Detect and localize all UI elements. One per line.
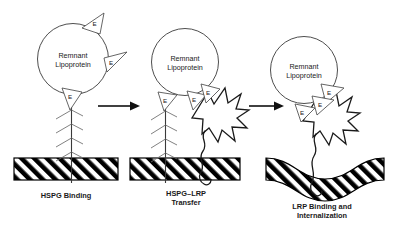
particle-label-line1: Remnant <box>289 62 318 71</box>
apoe-letter: E <box>109 59 113 66</box>
remnant-lipoprotein-pathway-diagram: Remnant Lipoprotein E E E HSPG Binding <box>0 0 394 228</box>
plasma-membrane-flat-2 <box>130 158 240 180</box>
remnant-lipoprotein-particle-1: Remnant Lipoprotein <box>38 24 109 95</box>
apoe-letter: E <box>327 89 331 96</box>
apoe-letter: E <box>68 93 72 100</box>
remnant-lipoprotein-particle-2: Remnant Lipoprotein <box>152 29 219 96</box>
apoe-letter: E <box>300 109 304 116</box>
apoe-letter: E <box>92 20 96 27</box>
plasma-membrane-flat-1 <box>14 158 118 180</box>
apoe-letter: E <box>163 97 167 104</box>
panel-caption-hspg-binding: HSPG Binding <box>41 191 92 200</box>
panel-caption-internalization-line2: Internalization <box>297 211 348 220</box>
apoe-letter: E <box>192 96 196 103</box>
particle-label-line2: Lipoprotein <box>55 60 91 69</box>
particle-label-line2: Lipoprotein <box>167 63 203 72</box>
panel-caption-transfer-line1: HSPG–LRP <box>166 189 206 198</box>
particle-label-line2: Lipoprotein <box>286 71 322 80</box>
apoe-letter: E <box>206 89 210 96</box>
panel-caption-internalization-line1: LRP Binding and <box>292 202 352 211</box>
apoe-letter: E <box>318 101 322 108</box>
particle-label-line1: Remnant <box>170 54 199 63</box>
panel-caption-transfer-line2: Transfer <box>171 198 200 207</box>
particle-label-line1: Remnant <box>58 51 87 60</box>
